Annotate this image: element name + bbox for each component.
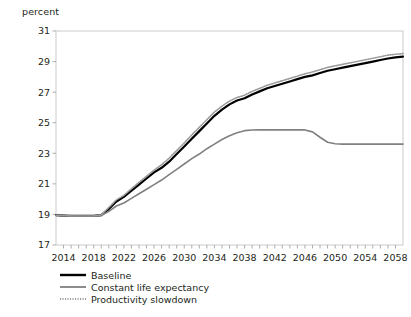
x-tick-label: 2054 — [353, 252, 377, 263]
chart-figure: percent 17192123252729312014201820222026… — [0, 0, 411, 317]
y-tick-label: 19 — [38, 209, 50, 220]
x-tick-label: 2030 — [172, 252, 196, 263]
x-tick-label: 2022 — [112, 252, 136, 263]
y-tick-label: 21 — [38, 178, 50, 189]
plot-area: 1719212325272931201420182022202620302034… — [0, 0, 411, 317]
series-line-2 — [56, 54, 403, 216]
x-tick-label: 2046 — [293, 252, 317, 263]
x-tick-label: 2026 — [142, 252, 166, 263]
x-tick-label: 2058 — [383, 252, 407, 263]
y-tick-label: 29 — [38, 56, 50, 67]
legend-label-0: Baseline — [91, 270, 131, 281]
legend-label-2: Productivity slowdown — [91, 294, 197, 305]
x-tick-label: 2042 — [263, 252, 287, 263]
x-tick-label: 2050 — [323, 252, 347, 263]
x-tick-label: 2014 — [51, 252, 75, 263]
line-chart: 1719212325272931201420182022202620302034… — [0, 0, 411, 317]
legend-label-1: Constant life expectancy — [91, 282, 209, 293]
y-tick-label: 23 — [38, 148, 50, 159]
y-tick-label: 17 — [38, 239, 50, 250]
x-tick-label: 2034 — [202, 252, 226, 263]
y-tick-label: 27 — [38, 87, 50, 98]
y-tick-label: 25 — [38, 117, 50, 128]
x-tick-label: 2018 — [82, 252, 106, 263]
x-tick-label: 2038 — [232, 252, 256, 263]
y-tick-label: 31 — [38, 25, 50, 36]
series-line-1 — [56, 130, 403, 216]
